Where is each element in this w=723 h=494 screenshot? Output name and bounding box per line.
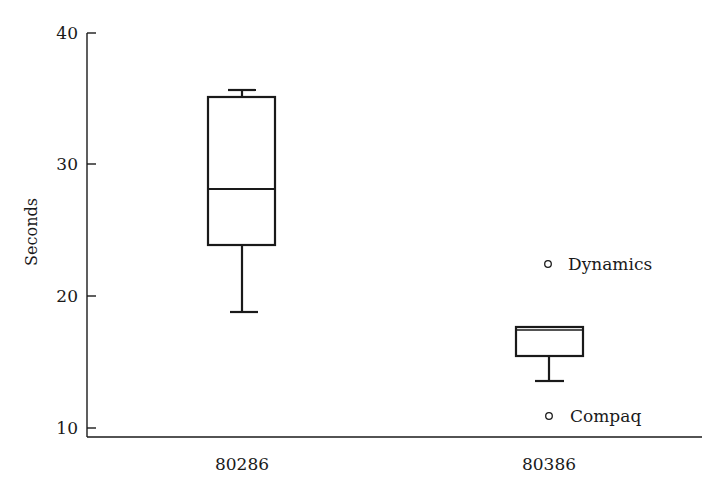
outlier-label: Dynamics — [568, 254, 652, 274]
x-tick-label-80286: 80286 — [215, 454, 269, 474]
y-axis-ticks: 40 30 20 10 — [56, 23, 96, 438]
outlier-marker — [546, 413, 553, 420]
y-tick-label-10: 10 — [56, 418, 78, 438]
box-80386 — [516, 327, 583, 381]
y-tick-label-30: 30 — [56, 154, 78, 174]
x-tick-label-80386: 80386 — [522, 454, 576, 474]
box-80286 — [208, 90, 275, 312]
y-axis-title: Seconds — [22, 198, 41, 266]
outlier-dynamics: Dynamics — [545, 254, 652, 274]
outlier-marker — [545, 261, 552, 268]
interquartile-box — [208, 97, 275, 245]
outlier-label: Compaq — [570, 406, 641, 426]
box-plot-chart: 40 30 20 10 Seconds 80286 80386 Dynamics… — [0, 0, 723, 494]
y-tick-label-20: 20 — [56, 286, 78, 306]
y-tick-label-40: 40 — [56, 23, 78, 43]
outlier-compaq: Compaq — [546, 406, 642, 426]
interquartile-box — [516, 327, 583, 356]
